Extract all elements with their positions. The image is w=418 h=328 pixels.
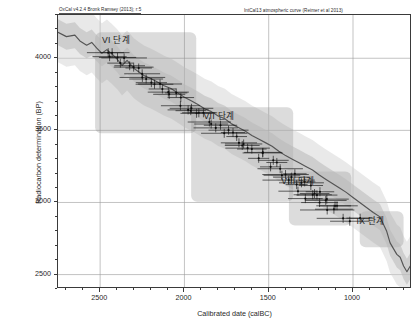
data-point — [304, 181, 306, 183]
data-point — [129, 65, 131, 67]
x-minor-tick — [318, 288, 319, 290]
data-point — [262, 151, 264, 153]
x-minor-tick — [82, 288, 83, 290]
x-minor-tick — [386, 288, 387, 290]
x-tick-label-2: 1500 — [260, 293, 276, 302]
x-tick-label-3: 1000 — [344, 293, 360, 302]
x-minor-tick — [285, 288, 286, 290]
data-point — [297, 190, 299, 192]
x-minor-tick — [301, 288, 302, 290]
data-point — [161, 88, 163, 90]
data-point — [119, 62, 121, 64]
data-point — [243, 143, 245, 145]
data-point — [150, 82, 152, 84]
data-point — [219, 124, 221, 126]
x-tick-mark — [268, 288, 269, 292]
data-point — [210, 123, 212, 125]
data-point — [190, 107, 192, 109]
data-point — [279, 168, 281, 170]
data-point — [175, 92, 177, 94]
data-point — [304, 198, 306, 200]
data-point — [202, 112, 204, 114]
data-point — [326, 209, 328, 211]
data-point — [258, 157, 260, 159]
data-point — [232, 131, 234, 133]
data-point — [179, 105, 181, 107]
data-point — [313, 192, 315, 194]
y-axis-title: Radiocarbon determination (BP) — [34, 53, 43, 253]
y-tick-label-2: 3000 — [0, 196, 51, 205]
data-point — [238, 142, 240, 144]
y-tick-label-3: 2500 — [0, 269, 51, 278]
x-minor-tick — [116, 288, 117, 290]
chart-svg — [58, 15, 411, 288]
x-minor-tick — [167, 288, 168, 290]
data-point — [180, 97, 182, 99]
x-minor-tick — [133, 288, 134, 290]
x-tick-label-0: 2500 — [91, 293, 107, 302]
x-minor-tick — [200, 288, 201, 290]
data-point — [312, 194, 314, 196]
x-minor-tick — [150, 288, 151, 290]
x-tick-label-1: 2000 — [175, 293, 191, 302]
x-minor-tick — [65, 288, 66, 290]
data-point — [227, 129, 229, 131]
data-point — [319, 191, 321, 193]
data-point — [270, 166, 272, 168]
data-point — [168, 93, 170, 95]
data-point — [141, 76, 143, 78]
data-point — [326, 198, 328, 200]
data-point — [145, 78, 147, 80]
data-point — [208, 121, 210, 123]
data-point — [276, 161, 278, 163]
x-tick-mark — [183, 288, 184, 292]
oxcal-version-text: OxCal v4.2.4 Bronk Ramsey (2013); r:5 — [59, 7, 141, 14]
data-point — [215, 127, 217, 129]
data-point — [272, 159, 274, 161]
intcal-curve-caption: IntCal13 atmospheric curve (Reimer et al… — [244, 8, 343, 13]
data-point — [138, 67, 140, 69]
data-point — [159, 83, 161, 85]
data-point — [336, 205, 338, 207]
data-point — [111, 52, 113, 54]
x-tick-mark — [99, 288, 100, 292]
y-minor-tick — [55, 288, 57, 289]
x-minor-tick — [335, 288, 336, 290]
data-point — [319, 202, 321, 204]
data-point — [359, 217, 361, 219]
x-tick-mark — [352, 288, 353, 292]
data-point — [251, 148, 253, 150]
data-point — [290, 176, 292, 178]
y-tick-label-0: 4000 — [0, 52, 51, 61]
x-minor-tick — [369, 288, 370, 290]
data-point — [236, 136, 238, 138]
x-minor-tick — [251, 288, 252, 290]
plot-area — [57, 14, 411, 288]
data-point — [294, 173, 296, 175]
oxcal-version-caption: OxCal v4.2.4 Bronk Ramsey (2013); r:5 — [59, 7, 141, 12]
data-point — [123, 57, 125, 59]
data-point — [288, 179, 290, 181]
x-minor-tick — [403, 288, 404, 290]
data-point — [342, 217, 344, 219]
data-point — [349, 220, 351, 222]
x-minor-tick — [217, 288, 218, 290]
radiocarbon-calibration-figure: OxCal v4.2.4 Bronk Ramsey (2013); r:5 In… — [0, 0, 418, 328]
data-point — [296, 184, 298, 186]
data-point — [310, 184, 312, 186]
y-tick-label-1: 3500 — [0, 124, 51, 133]
x-axis-title: Calibrated date (calBC) — [57, 309, 412, 318]
x-minor-tick — [234, 288, 235, 290]
